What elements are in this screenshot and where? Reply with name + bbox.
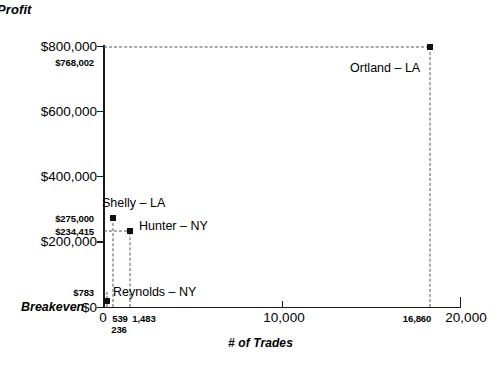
y-tick-label-600000: $600,000 <box>41 103 97 118</box>
scatter-chart: Profit # of Trades $0 $200,000 $400,000 … <box>0 0 500 367</box>
value-label-trades-hunter: 1,483 <box>132 313 155 324</box>
value-label-profit-ortland: $768,002 <box>55 57 94 68</box>
y-tick-200000 <box>97 241 103 242</box>
x-tick-label-0: 0 <box>99 310 107 325</box>
data-point-reynolds[interactable] <box>104 298 110 304</box>
x-tick-label-10000: 10,000 <box>263 310 304 325</box>
value-label-profit-hunter: $234,415 <box>55 226 94 237</box>
y-tick-800000 <box>97 46 103 47</box>
data-point-label-hunter: Hunter – NY <box>139 219 208 233</box>
data-point-label-shelly: Shelly – LA <box>102 196 165 210</box>
breakeven-label: Breakeven <box>21 300 84 314</box>
value-label-profit-reynolds: $783 <box>73 287 94 298</box>
leader-line-horizontal-ortland <box>104 46 429 47</box>
leader-line-vertical-ortland <box>429 47 430 307</box>
x-tick-label-20000: 20,000 <box>445 310 486 325</box>
value-label-trades-shelly: 539 <box>112 313 128 324</box>
y-tick-600000 <box>97 111 103 112</box>
data-point-shelly[interactable] <box>110 215 116 221</box>
y-tick-label-400000: $400,000 <box>41 169 97 184</box>
data-point-hunter[interactable] <box>127 228 133 234</box>
y-tick-label-800000: $800,000 <box>41 38 97 53</box>
x-tick-10000 <box>282 301 283 307</box>
value-label-trades-reynolds: 236 <box>111 324 127 335</box>
y-tick-400000 <box>97 176 103 177</box>
data-point-ortland[interactable] <box>427 44 433 50</box>
value-label-trades-ortland: 16,860 <box>403 313 431 324</box>
data-point-label-reynolds: Reynolds – NY <box>113 285 196 299</box>
y-axis-line <box>103 45 105 308</box>
x-axis-title: # of Trades <box>228 336 293 350</box>
value-label-profit-shelly: $275,000 <box>55 212 94 223</box>
leader-line-horizontal-hunter <box>104 231 127 232</box>
data-point-label-ortland: Ortland – LA <box>350 61 420 75</box>
x-tick-20000 <box>460 297 461 307</box>
y-axis-title: Profit <box>0 2 32 17</box>
